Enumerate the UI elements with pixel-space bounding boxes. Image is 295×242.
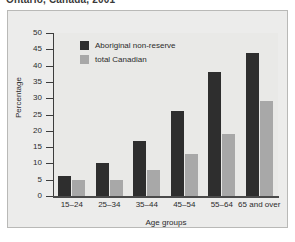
y-axis-tick [46, 33, 53, 34]
bar [110, 180, 123, 196]
bar [58, 176, 71, 196]
y-axis-tick [46, 196, 53, 197]
y-axis-tick-label: 5 [8, 176, 42, 184]
bar [260, 101, 273, 196]
bar [246, 53, 259, 196]
bar-group [95, 33, 123, 196]
y-axis-tick [46, 82, 53, 83]
bar-group [133, 33, 161, 196]
bar [208, 72, 221, 196]
bar [171, 111, 184, 196]
bar [185, 154, 198, 196]
page-title: Ontario, Canada, 2001 [6, 0, 289, 6]
y-axis-tick-label: 10 [8, 159, 42, 167]
x-axis-line [53, 196, 279, 198]
y-axis-tick-label: 0 [8, 192, 42, 200]
bar [133, 141, 146, 196]
bar-group [208, 33, 236, 196]
chart-card: 05101520253035404550 Percentage Aborigin… [7, 10, 288, 228]
bar [72, 180, 85, 196]
bar [96, 163, 109, 196]
bar [147, 170, 160, 196]
y-axis-label: Percentage [14, 68, 23, 128]
y-axis-tick [46, 98, 53, 99]
y-axis-tick [46, 49, 53, 50]
y-axis-tick [46, 115, 53, 116]
y-axis-tick-label: 20 [8, 127, 42, 135]
y-axis-tick [46, 66, 53, 67]
y-axis-tick-label: 15 [8, 143, 42, 151]
y-axis-tick-label: 50 [8, 29, 42, 37]
chart-title-strip: Ontario, Canada, 2001 [6, 0, 289, 6]
y-axis-tick-label: 45 [8, 45, 42, 53]
bar [222, 134, 235, 196]
figure: Ontario, Canada, 2001 051015202530354045… [0, 0, 295, 242]
x-axis-tick-label: 65 and over [237, 200, 281, 209]
x-axis-label: Age groups [53, 218, 279, 227]
bar-group [58, 33, 86, 196]
y-axis-tick [46, 131, 53, 132]
y-axis-tick [46, 180, 53, 181]
y-axis-tick [46, 147, 53, 148]
bar-group [170, 33, 198, 196]
bar-group [245, 33, 273, 196]
y-axis-tick [46, 163, 53, 164]
y-axis-line [53, 33, 54, 197]
